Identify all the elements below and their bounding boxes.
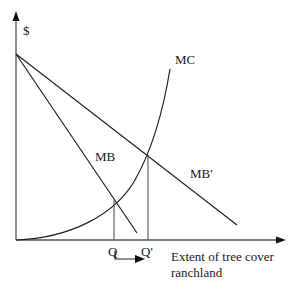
q-prime-label: Q'	[141, 244, 153, 259]
mb-label: MB	[95, 149, 116, 164]
x-axis-label-line1: Extent of tree cover	[171, 249, 275, 264]
mb-prime-label: MB'	[190, 166, 213, 181]
mb-prime-curve	[16, 54, 237, 225]
economics-diagram: $ MC MB MB' Q Q' Extent of tree cover ra…	[0, 0, 294, 286]
y-axis-label: $	[23, 23, 30, 38]
mb-curve	[16, 54, 137, 233]
mc-label: MC	[175, 52, 195, 67]
mc-curve	[16, 69, 170, 240]
x-axis-label-line2: ranchland	[171, 265, 223, 280]
x-axis-arrow-icon	[276, 237, 286, 244]
q-label: Q	[108, 244, 118, 259]
shift-arrow-icon	[115, 251, 136, 259]
y-axis-arrow-icon	[13, 11, 20, 21]
